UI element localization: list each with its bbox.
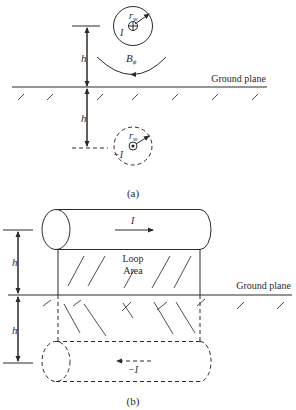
image-current-label: −I [113,149,124,160]
field-label: Bϕ [126,52,137,66]
ground-hatching [43,299,284,311]
ground-plane-label: Ground plane [211,73,266,84]
caption-b: (b) [127,395,140,408]
wire-cylinder: I [42,210,211,250]
image-wire-cross-section: rw −I [113,127,152,165]
ground-plane-label: Ground plane [236,280,291,291]
loop-area-label-line2: Area [123,265,143,276]
wire-end-ellipse [42,210,70,250]
wire-cross-section: rw I [114,7,153,46]
image-radius-label: rw [129,130,138,143]
field-direction-arrowhead [130,72,136,77]
loop-area-label-line1: Loop [122,253,143,264]
image-radius-arrow [136,136,149,144]
caption-a: (a) [127,187,140,200]
height-label-upper: h [12,256,18,268]
height-label-upper: h [81,52,87,64]
ground-hatching [18,94,258,100]
figure-a: rw I Bϕ Ground plane h h [12,7,267,201]
height-label-lower: h [81,112,87,124]
figure-b: I Loop Area Ground plane [3,210,292,409]
height-dimension: h h [3,230,33,363]
current-out-of-page-icon [129,142,137,150]
image-wire-cylinder: −I [42,342,211,382]
radius-label: rw [129,10,138,23]
image-current-label: −I [128,364,139,375]
current-label: I [119,27,124,38]
ground-plane-image-diagram: rw I Bϕ Ground plane h h [0,0,296,410]
current-label: I [130,215,135,226]
height-label-lower: h [12,324,18,336]
image-wire-end-ellipse [42,342,70,382]
